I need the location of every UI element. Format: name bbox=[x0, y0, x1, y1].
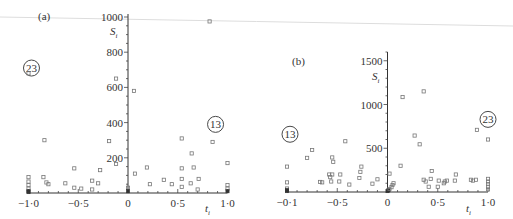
data-point bbox=[285, 190, 288, 193]
data-point bbox=[429, 177, 432, 180]
data-point bbox=[475, 128, 478, 131]
annotation-label: 23 bbox=[483, 113, 495, 125]
y-tick-label: 1000 bbox=[361, 99, 384, 111]
x-axis-label: ti bbox=[466, 202, 471, 217]
data-point bbox=[388, 172, 391, 175]
scatter-panel-b: −0·1−0·500·51·050010001500(b)Siti1323 bbox=[0, 0, 513, 219]
data-point bbox=[376, 178, 379, 181]
y-tick-label: 1500 bbox=[361, 55, 384, 67]
data-point bbox=[330, 180, 333, 183]
data-point bbox=[285, 165, 288, 168]
data-point bbox=[486, 138, 489, 141]
x-tick-label: −0·5 bbox=[327, 196, 348, 208]
data-point bbox=[436, 185, 439, 188]
x-tick-label: −0·1 bbox=[277, 196, 298, 208]
data-point bbox=[401, 95, 404, 98]
y-tick-label: 500 bbox=[366, 142, 383, 154]
data-point bbox=[311, 148, 314, 151]
data-point bbox=[430, 169, 433, 172]
data-point bbox=[359, 170, 362, 173]
data-point bbox=[331, 156, 334, 159]
x-tick-label: 0 bbox=[385, 196, 391, 208]
data-point bbox=[358, 176, 361, 179]
data-point bbox=[418, 143, 421, 146]
data-point bbox=[285, 181, 288, 184]
data-point bbox=[338, 180, 341, 183]
panel-label: (b) bbox=[292, 55, 305, 68]
x-tick-label: 1·0 bbox=[481, 196, 496, 208]
data-point bbox=[454, 173, 457, 176]
y-axis-label: Si bbox=[372, 70, 380, 85]
data-point bbox=[453, 179, 456, 182]
data-point bbox=[306, 156, 309, 159]
x-tick-label: 0·5 bbox=[430, 196, 445, 208]
data-point bbox=[371, 182, 374, 185]
data-point bbox=[399, 164, 402, 167]
data-point bbox=[348, 183, 351, 186]
data-point bbox=[427, 185, 430, 188]
data-point bbox=[339, 173, 342, 176]
data-point bbox=[332, 160, 335, 163]
data-point bbox=[360, 165, 363, 168]
data-point bbox=[422, 90, 425, 93]
annotation-label: 13 bbox=[285, 128, 297, 140]
data-point bbox=[344, 140, 347, 143]
data-point bbox=[413, 134, 416, 137]
data-point bbox=[437, 179, 440, 182]
